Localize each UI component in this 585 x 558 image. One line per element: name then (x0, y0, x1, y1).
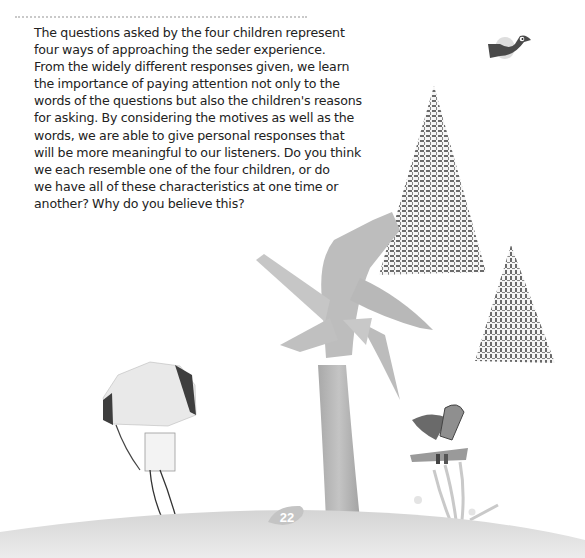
large-triangle-shape (379, 86, 486, 275)
collage-illustration (0, 0, 585, 558)
small-triangle-shape (475, 245, 555, 363)
small-figure-with-plants (410, 405, 498, 520)
child-figure (103, 362, 196, 532)
page-number: 22 (270, 507, 304, 529)
bird-icon (488, 36, 531, 60)
